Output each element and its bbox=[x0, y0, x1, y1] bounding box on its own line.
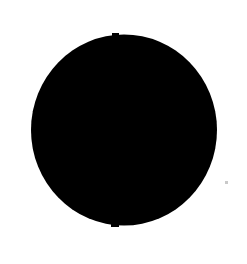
bottom-nub bbox=[111, 224, 119, 227]
black-disc bbox=[31, 35, 217, 226]
top-nub bbox=[112, 33, 119, 36]
image-canvas: A large solid black circle centered on a… bbox=[0, 0, 247, 264]
speck bbox=[225, 181, 228, 184]
figure-svg bbox=[0, 0, 247, 264]
